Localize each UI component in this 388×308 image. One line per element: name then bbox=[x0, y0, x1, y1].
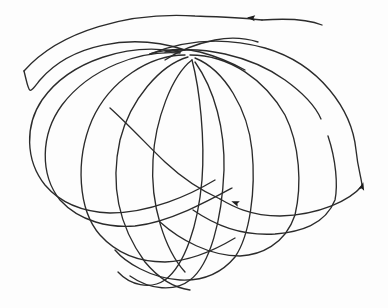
trajectory-loop-2-right bbox=[165, 50, 321, 119]
trajectory-loop-3-left bbox=[45, 53, 232, 227]
trajectory-loop-4-left bbox=[81, 55, 235, 262]
trajectory-loop-1-return bbox=[220, 186, 362, 216]
trajectory-canvas bbox=[0, 0, 388, 308]
trajectory-curves bbox=[24, 15, 362, 290]
trajectory-loop-6-right bbox=[118, 60, 203, 285]
trajectory-top-right-tail bbox=[262, 19, 322, 25]
trajectory-loop-3-right bbox=[160, 55, 299, 256]
trajectory-loop-1-right bbox=[150, 41, 362, 186]
trajectory-loop-5-right bbox=[130, 62, 224, 288]
rosette-trajectory-figure bbox=[0, 0, 388, 308]
trajectory-loop-2-right-lower bbox=[193, 136, 336, 234]
arrow-top-icon bbox=[247, 15, 255, 22]
